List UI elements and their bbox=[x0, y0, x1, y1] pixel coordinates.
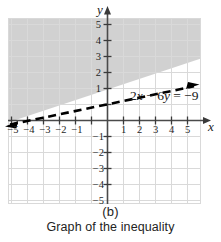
equation-rhs: −9 bbox=[184, 88, 199, 103]
equation-minus: − bbox=[143, 88, 157, 103]
y-tick-label--2: −2 bbox=[93, 147, 104, 158]
y-tick-label--3: −3 bbox=[93, 163, 104, 174]
equation-equals: = bbox=[170, 88, 184, 103]
equation-var-y: y bbox=[162, 88, 170, 103]
x-tick-label--1: −1 bbox=[71, 124, 82, 135]
x-tick-label-2: 2 bbox=[137, 124, 142, 135]
x-tick-label-4: 4 bbox=[169, 124, 175, 135]
y-tick-label-3: 3 bbox=[96, 51, 101, 62]
y-axis-label: y bbox=[95, 2, 103, 17]
y-tick-label-5: 5 bbox=[96, 19, 101, 30]
x-tick-label-5: 5 bbox=[185, 124, 190, 135]
caption-letter: (b) bbox=[0, 204, 221, 219]
x-tick-label--3: −3 bbox=[39, 124, 50, 135]
figure-caption: (b) Graph of the inequality bbox=[0, 204, 221, 235]
x-tick-label--2: −2 bbox=[55, 124, 66, 135]
x-axis-label: x bbox=[207, 119, 214, 134]
x-tick-label-1: 1 bbox=[121, 124, 126, 135]
equation-var-x: x bbox=[136, 88, 143, 103]
y-tick-label-4: 4 bbox=[96, 35, 102, 46]
x-tick-label--5: −5 bbox=[7, 124, 18, 135]
caption-text: Graph of the inequality bbox=[0, 219, 221, 235]
x-tick-label--4: −4 bbox=[23, 124, 35, 135]
equation-annotation: 2x − 6y = −9 bbox=[130, 88, 199, 103]
x-tick-label-3: 3 bbox=[153, 124, 158, 135]
equation-coef-x: 2 bbox=[130, 88, 137, 103]
y-tick-label--1: −1 bbox=[93, 131, 104, 142]
y-tick-label--4: −4 bbox=[93, 179, 105, 190]
y-tick-label-2: 2 bbox=[96, 67, 101, 78]
y-tick-label-1: 1 bbox=[96, 83, 101, 94]
inequality-graph-figure: −5 −4 −3 −2 −1 1 2 3 4 5 5 4 3 2 1 −1 −2… bbox=[0, 0, 221, 242]
